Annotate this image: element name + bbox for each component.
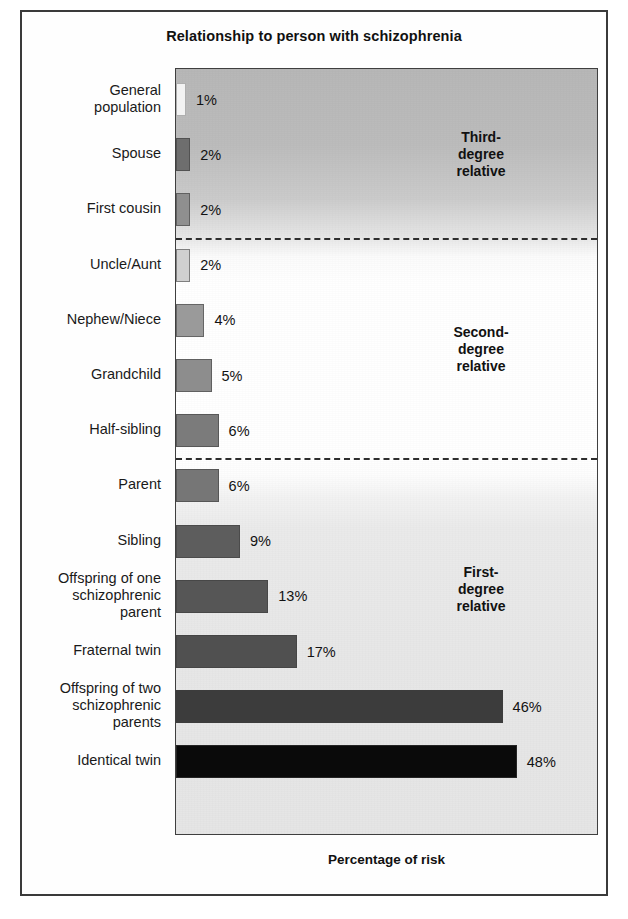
category-label-text: Sibling (7, 532, 175, 549)
category-label-text: Parent (7, 476, 175, 493)
category-label: Parent (7, 468, 175, 501)
category-label: Fraternal twin (7, 634, 175, 667)
group-label-first-degree: First- degree relative (421, 564, 541, 615)
category-label-text: General population (7, 82, 175, 116)
bar (176, 469, 219, 502)
bar (176, 83, 186, 116)
bar-value-label: 2% (200, 148, 221, 163)
category-label: First cousin (7, 192, 175, 225)
bar-value-label: 9% (250, 534, 271, 549)
category-label-text: Fraternal twin (7, 642, 175, 659)
group-divider (176, 238, 597, 240)
bar-value-label: 6% (229, 479, 250, 494)
bar (176, 193, 190, 226)
bar-value-label: 2% (200, 258, 221, 273)
group-divider (176, 458, 597, 460)
bar (176, 304, 204, 337)
category-label-column: General populationSpouseFirst cousinUncl… (22, 68, 175, 835)
plot-area: 1%2%2%2%4%5%6%6%9%13%17%46%48% Third- de… (175, 68, 598, 835)
bar (176, 745, 517, 778)
category-label: Offspring of one schizophrenic parent (7, 579, 175, 612)
category-label: Uncle/Aunt (7, 248, 175, 281)
group-label-third-degree: Third- degree relative (421, 129, 541, 180)
category-label-text: Uncle/Aunt (7, 256, 175, 273)
page-title: Relationship to person with schizophreni… (22, 28, 606, 44)
category-label-text: Spouse (7, 145, 175, 162)
bar (176, 359, 212, 392)
category-label-text: Nephew/Niece (7, 311, 175, 328)
category-label-text: Grandchild (7, 366, 175, 383)
category-label: Spouse (7, 137, 175, 170)
bar-value-label: 13% (278, 589, 307, 604)
bar-value-label: 1% (196, 93, 217, 108)
bar (176, 525, 240, 558)
bar (176, 580, 268, 613)
category-label: Nephew/Niece (7, 303, 175, 336)
bar-value-label: 2% (200, 203, 221, 218)
category-label: Grandchild (7, 358, 175, 391)
category-label-text: Identical twin (7, 752, 175, 769)
x-axis-label: Percentage of risk (175, 852, 598, 867)
bar-value-label: 6% (229, 424, 250, 439)
bar (176, 635, 297, 668)
category-label: Sibling (7, 524, 175, 557)
bar (176, 249, 190, 282)
figure-frame: Relationship to person with schizophreni… (20, 10, 608, 896)
category-label: Offspring of two schizophrenic parents (7, 689, 175, 722)
bar-value-label: 46% (513, 700, 542, 715)
category-label-text: Offspring of two schizophrenic parents (7, 680, 175, 731)
group-label-second-degree: Second- degree relative (421, 324, 541, 375)
category-label: Half-sibling (7, 413, 175, 446)
category-label-text: Offspring of one schizophrenic parent (7, 570, 175, 621)
category-label-text: Half-sibling (7, 421, 175, 438)
category-label: Identical twin (7, 744, 175, 777)
bar-value-label: 48% (527, 755, 556, 770)
category-label: General population (7, 82, 175, 115)
bar-value-label: 17% (307, 645, 336, 660)
bar (176, 138, 190, 171)
bar (176, 414, 219, 447)
bar-value-label: 4% (214, 313, 235, 328)
bar (176, 690, 503, 723)
bar-value-label: 5% (222, 369, 243, 384)
category-label-text: First cousin (7, 200, 175, 217)
